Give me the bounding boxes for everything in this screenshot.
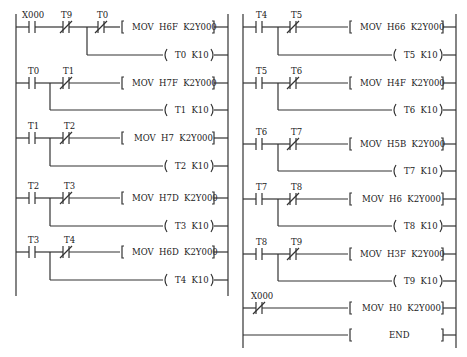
contact-no-icon [29,246,35,258]
contact-label: T4 [64,235,75,245]
contact-label: T7 [256,182,267,192]
contact-label: T2 [28,181,39,191]
instruction: MOV H7D K2Y000 [132,193,218,203]
coil: T8 K10 [404,221,438,231]
instruction: MOV H0 K2Y000 [362,303,441,313]
contact-label: T8 [256,237,267,247]
coil: T5 K10 [404,50,438,60]
contact-no-icon [256,248,262,260]
coil: T6 K10 [404,105,438,115]
instruction: MOV H6 K2Y000 [362,194,441,204]
ladder-diagram: X000 T9 T0 MOV H6F K2Y000 T0 K10 T0 [0,0,467,357]
instruction: MOV H4F K2Y000 [360,78,445,88]
contact-label: T9 [61,10,72,20]
instruction: MOV H3F K2Y000 [360,249,445,259]
contact-label: T6 [256,127,267,137]
right-column: T4 T5 MOV H66 K2Y000 T5 K10 T5 T6 [243,10,456,348]
instruction: MOV H66 K2Y000 [360,22,444,32]
contact-label: T6 [291,66,302,76]
contact-label: T3 [64,181,75,191]
contact-label: T7 [291,127,302,137]
contact-no-icon [256,193,262,205]
instruction: MOV H7F K2Y000 [132,78,217,88]
contact-no-icon [256,21,262,33]
rung: T1 T2 MOV H7 K2Y000 T2 K10 [16,121,228,172]
contact-no-icon [29,192,35,204]
rung: T8 T9 MOV H3F K2Y000 T9 K10 [243,237,456,287]
contact-label: T1 [63,66,74,76]
contact-no-icon [256,77,262,89]
end-instruction: END [389,330,410,340]
instruction: MOV H5B K2Y000 [360,139,445,149]
coil: T0 K10 [175,50,209,60]
coil: T9 K10 [404,276,438,286]
contact-no-icon [29,21,35,33]
contact-label: T2 [64,121,75,131]
contact-label: T0 [97,10,108,20]
rung: T3 T4 MOV H6D K2Y000 T4 K10 [16,235,228,286]
coil: T4 K10 [175,275,209,285]
contact-label: T5 [256,66,267,76]
coil: T2 K10 [175,161,209,171]
rung: T4 T5 MOV H66 K2Y000 T5 K10 [243,10,456,61]
rung: T0 T1 MOV H7F K2Y000 T1 K10 [16,66,228,116]
contact-no-icon [256,138,262,150]
rung: T6 T7 MOV H5B K2Y000 T7 K10 [243,127,456,177]
contact-label: X000 [251,291,273,301]
rung: X000 MOV H0 K2Y000 [243,291,456,314]
left-column: X000 T9 T0 MOV H6F K2Y000 T0 K10 T0 [16,10,228,296]
contact-label: T0 [28,66,39,76]
contact-label: T5 [291,10,302,20]
rung: X000 T9 T0 MOV H6F K2Y000 T0 K10 [16,10,228,61]
contact-label: T1 [28,121,39,131]
contact-label: T3 [28,235,39,245]
coil: T1 K10 [175,105,209,115]
rung: T5 T6 MOV H4F K2Y000 T6 K10 [243,66,456,116]
coil: T3 K10 [175,221,209,231]
contact-label: X000 [22,10,44,20]
instruction: MOV H6F K2Y000 [132,22,217,32]
contact-label: T8 [291,182,302,192]
contact-no-icon [29,132,35,144]
instruction: MOV H6D K2Y000 [132,247,218,257]
contact-label: T4 [256,10,267,20]
rung: T2 T3 MOV H7D K2Y000 T3 K10 [16,181,228,232]
contact-no-icon [29,77,35,89]
rung: T7 T8 MOV H6 K2Y000 T8 K10 [243,182,456,232]
rung-end: END [243,329,456,341]
contact-label: T9 [291,237,302,247]
coil: T7 K10 [404,166,438,176]
instruction: MOV H7 K2Y000 [134,133,213,143]
